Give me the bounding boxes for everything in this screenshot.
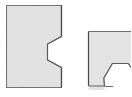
shapes-diagram xyxy=(0,0,131,97)
right-plate-shape xyxy=(89,32,132,91)
figure-canvas xyxy=(0,0,131,97)
